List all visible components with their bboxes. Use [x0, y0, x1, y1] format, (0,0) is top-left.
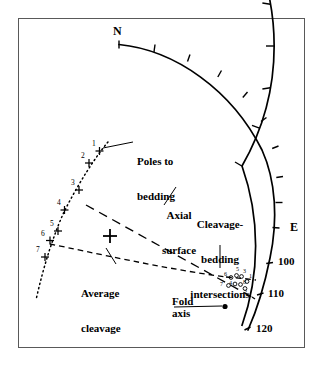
tick-070-mark	[276, 177, 283, 178]
average-cleavage-label: Average cleavage	[81, 265, 121, 358]
pole-marker-2	[85, 159, 93, 167]
intersection-label-2: 2	[244, 289, 247, 295]
east-label: E	[290, 221, 298, 234]
stereonet-figure: N E 100 110 120 Poles to bedding Axial s…	[0, 0, 322, 369]
tick-010-mark	[154, 45, 155, 53]
intersection-label-8: 8	[243, 279, 246, 285]
intersection-label-7: 7	[220, 281, 223, 287]
pole-marker-4	[61, 206, 69, 214]
average-cleavage-line-2: cleavage	[81, 323, 121, 335]
intersection-label-5: 5	[236, 266, 239, 272]
azimuth-label-100: 100	[278, 256, 295, 268]
pole-label-2: 2	[81, 152, 85, 160]
intersection-label-1: 1	[249, 273, 252, 279]
axial-surface-pole-marker	[103, 229, 117, 243]
tick-060-mark	[272, 146, 278, 149]
intersection-label-6: 6	[224, 271, 227, 277]
pole-marker-6	[46, 237, 54, 245]
pole-label-3: 3	[71, 179, 75, 187]
tick-100	[262, 88, 270, 89]
cleavage-bedding-line-2: bedding	[180, 254, 260, 266]
tick-110	[252, 125, 260, 128]
pole-label-7: 7	[36, 246, 40, 254]
cleavage-bedding-line-1: Cleavage-	[180, 219, 260, 231]
tick-030-mark	[218, 71, 222, 78]
azimuth-label-110: 110	[268, 288, 284, 300]
pole-label-6: 6	[41, 230, 45, 238]
poles-to-bedding-markers	[41, 147, 104, 261]
pole-label-1: 1	[92, 140, 96, 148]
tick-080	[262, 3, 270, 4]
intersection-label-3: 3	[243, 268, 246, 274]
azimuth-label-120: 120	[256, 323, 273, 335]
pole-label-4: 4	[57, 199, 61, 207]
pole-label-5: 5	[50, 220, 54, 228]
north-label: N	[113, 25, 122, 38]
tick-020-mark	[188, 55, 191, 62]
pole-marker-3	[75, 186, 83, 194]
tick-040-mark	[243, 92, 248, 98]
average-cleavage-line-1: Average	[81, 288, 121, 300]
poles-to-bedding-line-1: Poles to	[137, 156, 175, 168]
intersection-label-4: 4	[229, 280, 232, 286]
tick-120	[235, 162, 242, 166]
